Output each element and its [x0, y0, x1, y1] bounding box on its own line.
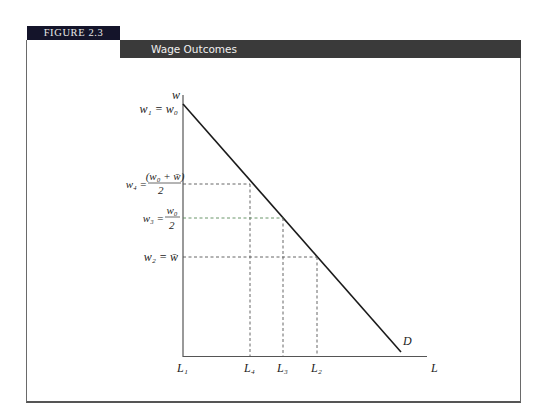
w3-numerator: w₀ — [166, 204, 177, 216]
demand-curve — [183, 104, 401, 352]
wage-outcomes-diagram: w L D w₁ = w₀ w₄ = (w₀ + w̄) 2 w₃ = w₀ 2… — [0, 0, 550, 417]
x-axis-label: L — [430, 361, 438, 375]
w3-denominator: 2 — [169, 219, 175, 231]
w4-label: w₄ = — [126, 178, 147, 190]
w3-label: w₃ = — [143, 212, 164, 224]
w1-label: w₁ = w₀ — [140, 102, 178, 116]
w2-label: w₂ = w̄ — [144, 250, 178, 264]
demand-curve-label: D — [402, 334, 412, 348]
w4-denominator: 2 — [158, 184, 164, 196]
L1-label: L₁ — [176, 361, 188, 375]
y-axis-label: w — [172, 88, 180, 102]
L2-label: L₂ — [310, 361, 322, 375]
L4-label: L₄ — [243, 361, 255, 375]
L3-label: L₃ — [276, 361, 288, 375]
w4-numerator: (w₀ + w̄) — [146, 170, 185, 183]
